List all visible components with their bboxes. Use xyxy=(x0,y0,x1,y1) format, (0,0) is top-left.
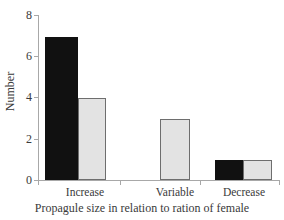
x-tick-mark-boundary-2 xyxy=(200,181,201,185)
x-axis-title: Propagule size in relation to ration of … xyxy=(0,201,284,216)
x-tick-label-decrease: Decrease xyxy=(204,186,284,199)
x-tick-label-variable: Variable xyxy=(135,186,215,199)
plot-area xyxy=(39,16,280,180)
y-tick-mark-8 xyxy=(34,15,38,16)
x-tick-mark-boundary-1 xyxy=(120,181,121,185)
bar-increase-light xyxy=(78,98,106,180)
bar-decrease-dark xyxy=(215,160,243,181)
bar-increase-dark xyxy=(45,37,78,181)
y-axis-title: Number xyxy=(3,62,18,122)
y-tick-label-0: 0 xyxy=(6,174,32,186)
y-tick-mark-6 xyxy=(34,56,38,57)
bar-variable-light xyxy=(160,119,190,181)
y-tick-mark-4 xyxy=(34,97,38,98)
y-tick-label-6: 6 xyxy=(6,50,32,62)
y-tick-label-2: 2 xyxy=(6,133,32,145)
bar-chart-figure: 8 6 4 2 0 Number Increase Variable Decre… xyxy=(0,0,284,220)
x-tick-mark-right-edge xyxy=(279,181,280,185)
x-tick-label-increase: Increase xyxy=(45,186,125,199)
bar-decrease-light xyxy=(243,160,272,181)
y-tick-label-8: 8 xyxy=(6,9,32,21)
x-tick-mark-left-edge xyxy=(38,181,39,185)
y-tick-mark-2 xyxy=(34,139,38,140)
x-axis-line xyxy=(38,180,280,181)
